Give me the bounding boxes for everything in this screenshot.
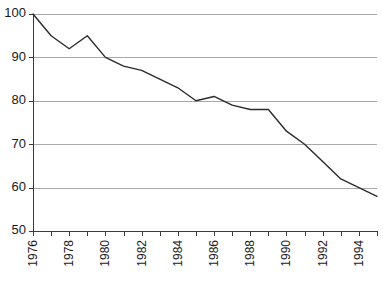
x-axis-tick-label: 1976: [26, 240, 40, 267]
y-axis-tick-label: 50: [12, 222, 26, 237]
y-axis-tick-label: 70: [12, 136, 26, 151]
y-axis-tick-label: 80: [12, 92, 26, 107]
x-axis-tick-label: 1986: [207, 240, 221, 267]
x-axis-tick-label: 1988: [243, 240, 257, 267]
x-axis-tick-label: 1980: [98, 240, 112, 267]
y-axis-tick-label: 90: [12, 49, 26, 64]
x-axis-tick-label: 1978: [62, 240, 76, 267]
line-chart: 5060708090100 19761978198019821984198619…: [0, 0, 383, 286]
x-axis-tick-label: 1990: [279, 240, 293, 267]
x-axis-tick-label: 1992: [316, 240, 330, 267]
x-axis-tick-label: 1994: [352, 240, 366, 267]
y-axis-tick-label: 60: [12, 179, 26, 194]
chart-canvas: 5060708090100 19761978198019821984198619…: [0, 0, 383, 286]
x-axis-tick-label: 1984: [171, 240, 185, 267]
y-axis-tick-label: 100: [4, 5, 26, 20]
x-axis-tick-label: 1982: [135, 240, 149, 267]
